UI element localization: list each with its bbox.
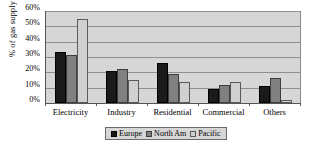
x-axis-category-labels: ElectricityIndustryResidentialCommercial… — [45, 107, 301, 121]
chart-legend: EuropeNorth AmPacific — [105, 127, 227, 140]
y-axis-tick-label: 0% — [29, 96, 40, 104]
bar — [117, 69, 128, 103]
x-axis-tick-mark — [96, 103, 97, 106]
plot-area — [45, 11, 301, 104]
y-axis-tick-label: 60% — [25, 4, 40, 12]
bar-group — [157, 11, 190, 103]
x-axis-tick-mark — [45, 103, 46, 106]
bar — [219, 85, 230, 103]
x-axis-tick-mark — [300, 103, 301, 106]
y-axis-tick-label: 50% — [25, 19, 40, 27]
y-axis-tick-label: 40% — [25, 35, 40, 43]
y-axis-tick-labels: 60%50%40%30%20%10%0% — [16, 8, 42, 103]
legend-entry: North Am — [146, 129, 186, 138]
x-axis-tick-mark — [147, 103, 148, 106]
y-axis-tick-label: 20% — [25, 65, 40, 73]
bar-group — [106, 11, 139, 103]
legend-label: North Am — [154, 129, 186, 138]
x-axis-tick-mark — [249, 103, 250, 106]
bar-group — [55, 11, 88, 103]
bar — [208, 89, 219, 103]
bar — [179, 82, 190, 103]
x-axis-category-label: Others — [235, 107, 315, 117]
y-axis-tick-label: 10% — [25, 81, 40, 89]
bar-group — [259, 11, 292, 103]
legend-entry: Pacific — [190, 129, 220, 138]
legend-swatch-icon — [111, 131, 117, 137]
bar — [259, 86, 270, 103]
bar — [168, 74, 179, 103]
bar — [230, 82, 241, 103]
bar — [281, 100, 292, 103]
legend-label: Pacific — [198, 129, 220, 138]
y-axis-tick-label: 30% — [25, 50, 40, 58]
x-axis-tick-mark — [198, 103, 199, 106]
legend-label: Europe — [119, 129, 142, 138]
bar — [66, 55, 77, 103]
bar — [157, 63, 168, 103]
bar — [128, 80, 139, 103]
plot-frame-right-edge — [300, 11, 301, 104]
bar-chart: % of gas supply 60%50%40%30%20%10%0% Ele… — [0, 0, 319, 147]
legend-swatch-icon — [146, 131, 152, 137]
bar-group — [208, 11, 241, 103]
bars-layer — [46, 11, 301, 103]
bar — [270, 78, 281, 103]
bar — [77, 19, 88, 103]
bar — [106, 71, 117, 103]
bar — [55, 52, 66, 103]
legend-swatch-icon — [190, 131, 196, 137]
legend-entry: Europe — [111, 129, 142, 138]
